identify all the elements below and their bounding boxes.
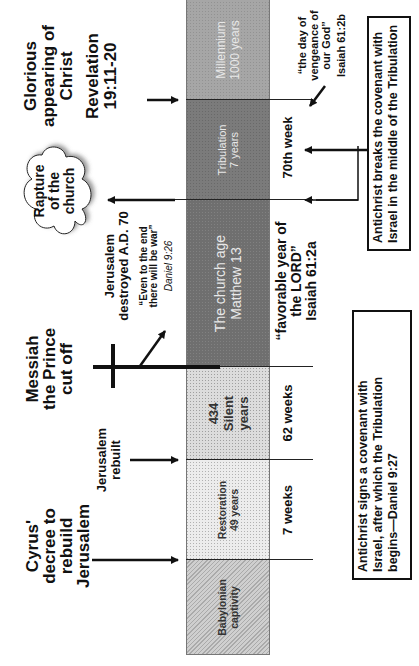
event-text: destroyed A.D. 70	[117, 196, 131, 336]
quote-text: “favorable year of	[274, 206, 289, 356]
event-text: Rapture	[32, 154, 47, 228]
event-text: of the	[47, 154, 62, 228]
connector-line	[316, 146, 358, 200]
quote-day-of-vengeance: “the day of vengeance of our God” Isaiah…	[296, 3, 347, 88]
box-text: begins—Daniel 9:27	[386, 318, 401, 572]
box-text: Antichrist signs a covenant with	[356, 318, 371, 572]
event-text: church	[62, 154, 77, 228]
event-jerusalem-destroyed: Jerusalem destroyed A.D. 70 “Even to the…	[103, 196, 174, 336]
event-text: Glorious	[22, 6, 40, 146]
event-text: the Prince	[41, 294, 58, 444]
event-messiah-cut-off: Messiah the Prince cut off	[24, 294, 75, 444]
scripture-ref: Isaiah 61:2b	[335, 3, 347, 88]
seventy-weeks-diagram: Babyloniancaptivity Restoration49 years …	[0, 0, 419, 666]
arrow-icon	[310, 86, 325, 106]
arrow-icon	[140, 331, 165, 366]
event-text: Christ	[58, 6, 76, 146]
box-antichrist-signs-covenant: Antichrist signs a covenant with Israel,…	[352, 310, 412, 580]
quote-text: vengeance of	[308, 3, 320, 88]
cross-icon	[111, 344, 115, 388]
quote-favorable-year: “favorable year of the LORD” Isaiah 61:2…	[274, 206, 319, 356]
event-text: Messiah	[24, 294, 41, 444]
event-text: rebuilt	[109, 419, 123, 501]
scripture-ref: Isaiah 61:2a	[304, 206, 319, 356]
quote-text: our God”	[320, 3, 332, 88]
event-rapture: Rapture of the church	[32, 154, 77, 228]
box-text: Israel in the middle of the Tribulation	[386, 24, 401, 243]
box-text: Israel, after which the Tribulation	[371, 318, 386, 572]
event-text: cut off	[58, 294, 75, 444]
quote-text: the LORD”	[289, 206, 304, 356]
quote-text: “the day of	[296, 3, 308, 88]
event-text: appearing of	[40, 6, 58, 146]
scripture-ref: 19:11-20	[102, 6, 120, 146]
box-text: Antichrist breaks the covenant with	[371, 24, 386, 243]
event-jerusalem-rebuilt: Jerusalem rebuilt	[95, 419, 123, 501]
event-text: Jerusalem	[95, 419, 109, 501]
event-text: Jerusalem	[103, 196, 117, 336]
quote-text: there will be war”	[149, 196, 159, 336]
scripture-ref: Daniel 9:26	[164, 196, 174, 336]
scripture-ref: Revelation	[84, 6, 102, 146]
box-antichrist-breaks-covenant: Antichrist breaks the covenant with Isra…	[367, 16, 411, 251]
event-glorious-appearing: Glorious appearing of Christ Revelation …	[22, 6, 120, 146]
